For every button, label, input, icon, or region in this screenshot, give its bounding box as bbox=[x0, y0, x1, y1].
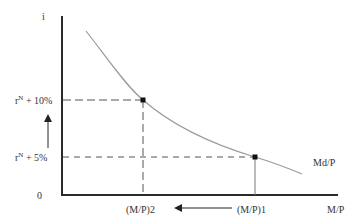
y-tick-low-rest: + 5% bbox=[23, 152, 47, 163]
money-demand-diagram: i M/P 0 Md/P rN + 10% rN + 5% (M/P)2 (M/… bbox=[0, 0, 359, 224]
y-axis-label: i bbox=[42, 11, 45, 22]
curve-label: Md/P bbox=[313, 157, 336, 168]
money-demand-curve bbox=[86, 31, 302, 174]
origin-label: 0 bbox=[37, 190, 42, 201]
y-tick-high-rest: + 10% bbox=[23, 95, 52, 106]
y-tick-low: rN + 5% bbox=[15, 151, 47, 163]
equilibrium-point-low bbox=[253, 155, 258, 160]
equilibrium-point-high bbox=[141, 98, 146, 103]
x-tick-mp1: (M/P)1 bbox=[237, 204, 266, 216]
x-axis-label: M/P bbox=[327, 204, 345, 215]
y-tick-high: rN + 10% bbox=[15, 94, 52, 106]
x-tick-mp2: (M/P)2 bbox=[126, 204, 155, 216]
